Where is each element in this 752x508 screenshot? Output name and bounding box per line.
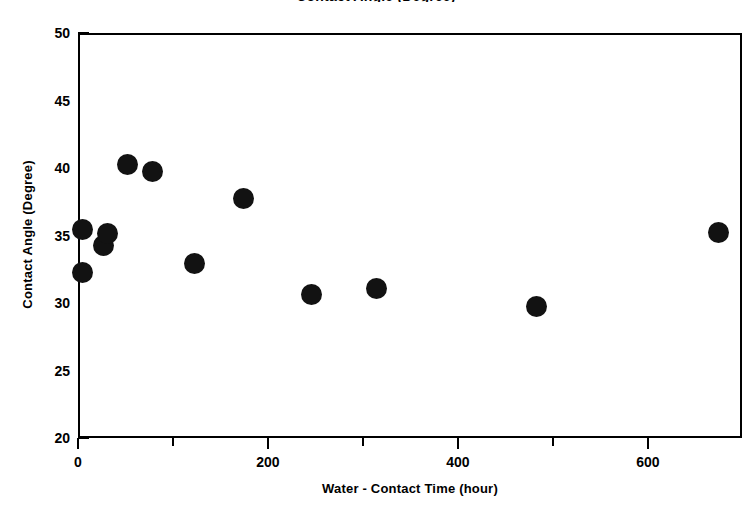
data-point [72, 219, 93, 240]
x-axis-tick-label: 200 [238, 455, 298, 469]
chart-title: Contact Angle (Degree) [0, 0, 752, 2]
x-axis-minor-tick [362, 438, 364, 446]
plot-area [78, 33, 742, 438]
x-axis-tick [77, 438, 79, 449]
y-axis-tick-label: 40 [30, 161, 70, 175]
x-axis-minor-tick [172, 438, 174, 446]
data-points-layer [80, 35, 740, 436]
y-axis-tick-label: 45 [30, 94, 70, 108]
x-axis-tick [647, 438, 649, 449]
y-axis-tick-label: 20 [30, 431, 70, 445]
x-axis-minor-tick [552, 438, 554, 446]
x-axis-tick [457, 438, 459, 449]
x-axis-tick-label: 400 [428, 455, 488, 469]
data-point [233, 188, 254, 209]
y-axis-label: Contact Angle (Degree) [21, 125, 34, 345]
x-axis-tick-label: 0 [48, 455, 108, 469]
data-point [142, 161, 163, 182]
x-axis-tick-label: 600 [618, 455, 678, 469]
data-point [72, 262, 93, 283]
x-axis-label: Water - Contact Time (hour) [78, 482, 742, 495]
data-point [117, 154, 138, 175]
data-point [184, 253, 205, 274]
y-axis-tick-label: 35 [30, 229, 70, 243]
data-point [708, 222, 729, 243]
data-point [301, 284, 322, 305]
x-axis-tick [267, 438, 269, 449]
scatter-chart-figure: Contact Angle (Degree) 20253035404550 02… [0, 0, 752, 508]
data-point [97, 223, 118, 244]
data-point [526, 296, 547, 317]
data-point [366, 278, 387, 299]
y-axis-tick-label: 25 [30, 364, 70, 378]
y-axis-tick-label: 50 [30, 26, 70, 40]
y-axis-tick-label: 30 [30, 296, 70, 310]
